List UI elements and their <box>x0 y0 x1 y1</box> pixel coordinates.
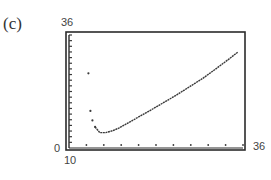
data-points <box>87 52 237 132</box>
calculator-plot <box>0 0 271 180</box>
x-axis-ticks <box>86 144 244 146</box>
plot-frame <box>66 32 245 150</box>
